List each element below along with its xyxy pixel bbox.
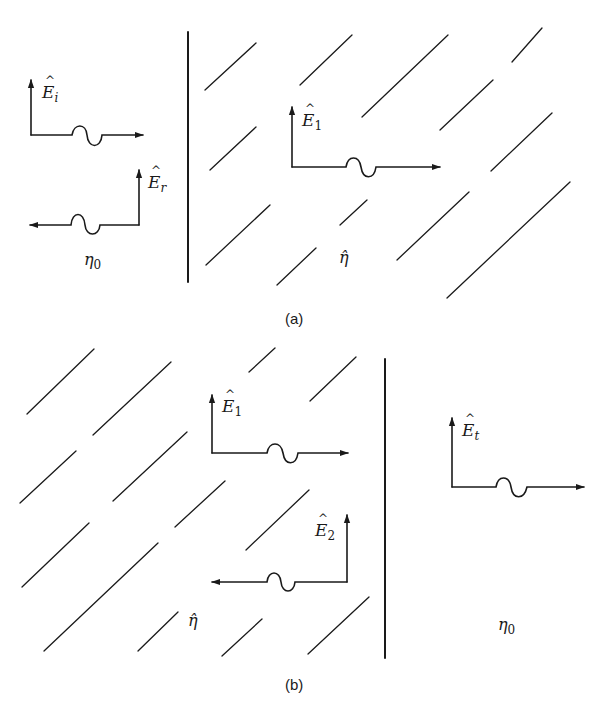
- label-e1-b: E1: [222, 398, 242, 418]
- label-e1-a: E1: [302, 112, 322, 132]
- label-eta-hat-b: η̂: [188, 613, 198, 629]
- label-eta0-b: η0: [498, 617, 515, 636]
- label-e2: E2: [315, 522, 335, 542]
- caption-a: (a): [285, 310, 303, 327]
- caption-b: (b): [285, 676, 303, 693]
- label-eta-hat-a: η̂: [339, 250, 349, 266]
- diagram-canvas: [0, 0, 603, 714]
- label-eta0-a: η0: [84, 252, 101, 271]
- hatch-pattern-a: [205, 28, 570, 298]
- label-e-reflected: Er: [148, 174, 166, 194]
- label-e-transmitted: Et: [462, 422, 479, 442]
- label-e-incident: Ei: [42, 84, 58, 104]
- reflected-wave-arrow: [30, 170, 139, 234]
- hatch-pattern-b: [20, 348, 369, 656]
